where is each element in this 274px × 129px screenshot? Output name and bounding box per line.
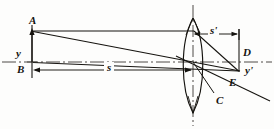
label-y-prime: y' (245, 65, 253, 76)
label-C: C (216, 95, 223, 106)
label-B: B (17, 64, 24, 75)
upper-facet-ray (193, 18, 200, 33)
ray-to-point-c (193, 62, 214, 93)
parallel-ray-refracted (194, 31, 239, 71)
label-y: y (16, 48, 21, 59)
label-s-prime: s' (208, 25, 219, 36)
dimension-sprime-arrow-left (194, 32, 201, 37)
label-E: E (229, 77, 236, 88)
ray-diagram-canvas (0, 0, 274, 129)
upper-facet-ray-2 (186, 18, 193, 35)
dimension-s-arrow-left (33, 68, 40, 73)
chief-ray (33, 32, 240, 72)
optical-ray-diagram-figure: A y B s s' D y' E C (0, 0, 274, 129)
dimension-sprime-arrow-right (232, 32, 239, 37)
label-D: D (243, 47, 251, 58)
label-A: A (29, 15, 36, 26)
dimension-s-arrow-right (185, 68, 192, 73)
label-s: s (104, 62, 114, 73)
